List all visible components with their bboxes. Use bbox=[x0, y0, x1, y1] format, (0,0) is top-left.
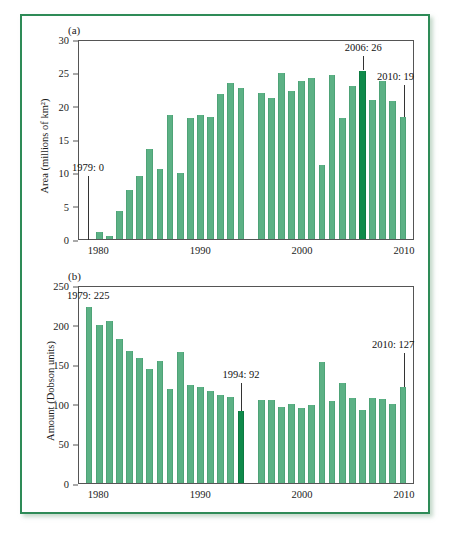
x-tick-1990: 1990 bbox=[190, 489, 211, 500]
bar-1987[interactable] bbox=[167, 389, 174, 483]
bar-1996[interactable] bbox=[258, 93, 265, 239]
bar-2008[interactable] bbox=[379, 81, 386, 239]
bar-slot bbox=[327, 287, 337, 483]
bar-1982[interactable] bbox=[116, 211, 123, 239]
bar-1983[interactable] bbox=[126, 190, 133, 239]
bar-2010[interactable] bbox=[400, 387, 407, 483]
bar-slot bbox=[266, 287, 276, 483]
bar-slot bbox=[256, 41, 266, 239]
bar-1990[interactable] bbox=[197, 387, 204, 483]
bar-1986[interactable] bbox=[157, 169, 164, 239]
bar-2005[interactable] bbox=[349, 86, 356, 239]
bar-slot bbox=[317, 41, 327, 239]
bar-1985[interactable] bbox=[146, 369, 153, 483]
bar-2002[interactable] bbox=[319, 165, 326, 239]
bar-2007[interactable] bbox=[369, 100, 376, 239]
bar-1998[interactable] bbox=[278, 407, 285, 483]
annotation-2010: 2010: 19 bbox=[377, 71, 414, 82]
bar-1993[interactable] bbox=[227, 397, 234, 483]
bar-1997[interactable] bbox=[268, 400, 275, 483]
bar-slot bbox=[357, 287, 367, 483]
bar-1990[interactable] bbox=[197, 115, 204, 239]
bar-2002[interactable] bbox=[319, 362, 326, 483]
bar-2001[interactable] bbox=[308, 78, 315, 239]
bar-1996[interactable] bbox=[258, 400, 265, 483]
x-tick-2010: 2010 bbox=[393, 245, 414, 256]
bar-2004[interactable] bbox=[339, 118, 346, 239]
bar-1986[interactable] bbox=[157, 361, 164, 483]
bar-slot bbox=[307, 41, 317, 239]
bar-2006[interactable] bbox=[359, 410, 366, 483]
bar-slot bbox=[94, 41, 104, 239]
bar-slot bbox=[114, 287, 124, 483]
bar-2000[interactable] bbox=[298, 81, 305, 239]
bar-2006[interactable] bbox=[359, 71, 366, 239]
y-tick-0: 0 bbox=[22, 235, 78, 246]
bar-1988[interactable] bbox=[177, 173, 184, 239]
bar-1991[interactable] bbox=[207, 117, 214, 239]
bar-1980[interactable] bbox=[96, 232, 103, 239]
bar-slot bbox=[125, 41, 135, 239]
bar-1981[interactable] bbox=[106, 236, 113, 239]
bar-2001[interactable] bbox=[308, 405, 315, 483]
bar-2010[interactable] bbox=[400, 117, 407, 239]
bar-2003[interactable] bbox=[329, 75, 336, 239]
bar-slot bbox=[206, 41, 216, 239]
bar-slot bbox=[327, 41, 337, 239]
y-tick-20: 20 bbox=[22, 101, 78, 112]
bar-slot bbox=[94, 287, 104, 483]
bar-1988[interactable] bbox=[177, 352, 184, 483]
bar-slot bbox=[175, 41, 185, 239]
y-tick-50: 50 bbox=[22, 439, 78, 450]
bar-slot bbox=[226, 41, 236, 239]
bar-1987[interactable] bbox=[167, 115, 174, 239]
bar-2004[interactable] bbox=[339, 383, 346, 483]
bar-1984[interactable] bbox=[136, 358, 143, 483]
bar-1999[interactable] bbox=[288, 404, 295, 483]
bar-1985[interactable] bbox=[146, 149, 153, 239]
bar-1993[interactable] bbox=[227, 83, 234, 239]
bar-1992[interactable] bbox=[217, 395, 224, 483]
bar-2007[interactable] bbox=[369, 398, 376, 483]
bar-1999[interactable] bbox=[288, 91, 295, 240]
annotation-leader-2010 bbox=[404, 85, 405, 117]
bar-2000[interactable] bbox=[298, 408, 305, 483]
bar-2003[interactable] bbox=[329, 401, 336, 483]
bar-1983[interactable] bbox=[126, 351, 133, 483]
bar-2005[interactable] bbox=[349, 398, 356, 483]
x-tick-2000: 2000 bbox=[292, 245, 313, 256]
bar-1994[interactable] bbox=[238, 88, 245, 239]
bar-1981[interactable] bbox=[106, 321, 113, 483]
annotation-leader-2006 bbox=[363, 56, 364, 70]
bar-1980[interactable] bbox=[96, 325, 103, 483]
bar-2008[interactable] bbox=[379, 399, 386, 483]
bar-1997[interactable] bbox=[268, 98, 275, 239]
bar-slot bbox=[266, 41, 276, 239]
bar-series-b bbox=[79, 287, 413, 483]
annotation-leader-1979 bbox=[88, 176, 89, 240]
bar-slot bbox=[165, 41, 175, 239]
bar-1984[interactable] bbox=[136, 176, 143, 239]
bar-slot bbox=[287, 287, 297, 483]
bar-2009[interactable] bbox=[389, 404, 396, 483]
bar-1991[interactable] bbox=[207, 391, 214, 483]
bar-slot bbox=[337, 287, 347, 483]
bar-slot bbox=[216, 41, 226, 239]
bar-slot bbox=[155, 287, 165, 483]
annotation-2006: 2006: 26 bbox=[345, 42, 382, 53]
bar-1998[interactable] bbox=[278, 73, 285, 239]
chart-panel-a: (a) Area (millions of km²) 0510152025301… bbox=[22, 22, 428, 270]
bar-1994[interactable] bbox=[238, 411, 245, 483]
bar-1979[interactable] bbox=[86, 307, 93, 483]
bar-slot bbox=[317, 287, 327, 483]
bar-1982[interactable] bbox=[116, 339, 123, 483]
bar-1989[interactable] bbox=[187, 118, 194, 239]
x-tick-2000: 2000 bbox=[292, 489, 313, 500]
bar-slot bbox=[246, 287, 256, 483]
bar-1992[interactable] bbox=[217, 94, 224, 239]
bar-1989[interactable] bbox=[187, 385, 194, 483]
bar-slot bbox=[368, 287, 378, 483]
bar-2009[interactable] bbox=[389, 101, 396, 239]
bar-slot bbox=[256, 287, 266, 483]
bar-slot bbox=[84, 287, 94, 483]
